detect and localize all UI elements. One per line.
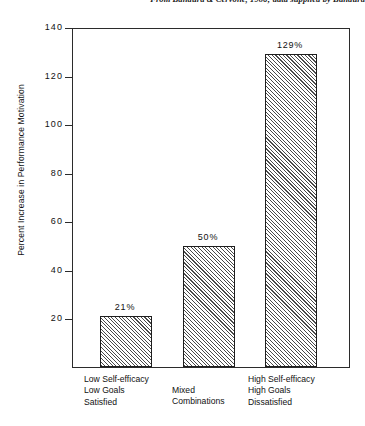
bar-value-label-1: 21% [99, 303, 151, 312]
y-tick-label-60: 60 [23, 217, 63, 226]
category-label-line: Satisfied [84, 397, 149, 408]
category-label-line: High Self-efficacy [248, 374, 315, 385]
y-tick-label-120: 120 [23, 72, 63, 81]
source-caption: From Bandura & Cervone, 1986; data suppl… [75, 0, 365, 6]
category-label-mixed-combinations: Mixed Combinations [172, 385, 225, 408]
bar-low-self-efficacy [100, 316, 152, 367]
category-label-line: Dissatisfied [248, 397, 315, 408]
category-label-low-self-efficacy: Low Self-efficacy Low Goals Satisfied [84, 374, 149, 408]
plot-area [72, 28, 350, 368]
bar-high-self-efficacy [265, 54, 317, 367]
category-label-line: High Goals [248, 385, 315, 396]
category-label-line: Low Goals [84, 385, 149, 396]
y-tick-label-40: 40 [23, 266, 63, 275]
bar-chart-figure: From Bandura & Cervone, 1986; data suppl… [0, 0, 365, 426]
bar-value-label-2: 50% [182, 233, 234, 242]
category-label-line: Mixed [172, 385, 225, 396]
y-tick-label-140: 140 [23, 23, 63, 32]
category-label-high-self-efficacy: High Self-efficacy High Goals Dissatisfi… [248, 374, 315, 408]
category-label-line: Low Self-efficacy [84, 374, 149, 385]
bar-mixed-combinations [183, 246, 235, 367]
category-label-line: Combinations [172, 396, 225, 407]
bar-value-label-3: 129% [264, 41, 316, 50]
y-tick-label-20: 20 [23, 314, 63, 323]
y-tick-label-80: 80 [23, 169, 63, 178]
y-tick-label-100: 100 [23, 120, 63, 129]
